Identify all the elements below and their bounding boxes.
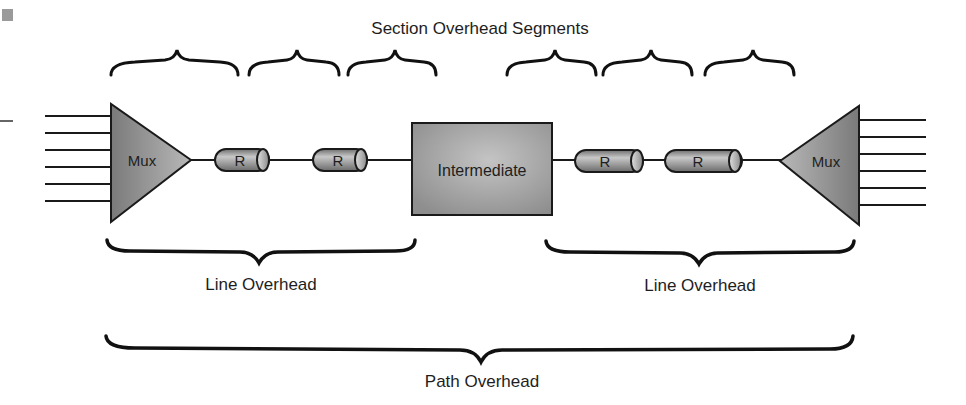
repeater-4-label: R	[693, 153, 704, 170]
line-overhead-right-label: Line Overhead	[644, 276, 756, 295]
repeater-2-label: R	[333, 152, 344, 169]
repeater-2: R	[313, 149, 367, 171]
repeater-1: R	[215, 149, 269, 171]
mux-left: Mux	[111, 104, 191, 222]
line-overhead-brace-left	[107, 240, 415, 263]
repeater-4: R	[665, 150, 742, 172]
repeater-3: R	[575, 150, 643, 172]
line-overhead-left-label: Line Overhead	[205, 275, 317, 294]
left-tributary-lines	[45, 116, 111, 201]
section-brace-4	[507, 50, 596, 75]
section-brace-6	[705, 50, 794, 75]
line-overhead-brace-right	[546, 241, 854, 264]
section-overhead-braces	[111, 50, 794, 75]
section-brace-3	[348, 50, 436, 75]
section-overhead-title: Section Overhead Segments	[371, 19, 588, 38]
mux-left-label: Mux	[128, 152, 157, 169]
section-brace-1	[111, 50, 238, 75]
repeater-1-label: R	[235, 152, 246, 169]
intermediate-label: Intermediate	[438, 162, 527, 179]
sonet-overhead-diagram: Section Overhead Segments	[0, 0, 966, 405]
mux-right: Mux	[780, 106, 859, 225]
corner-marker	[2, 9, 13, 21]
intermediate-node: Intermediate	[412, 123, 552, 215]
section-brace-2	[249, 50, 339, 75]
right-tributary-lines	[859, 120, 926, 205]
section-brace-5	[603, 50, 692, 75]
mux-right-label: Mux	[812, 153, 841, 170]
path-overhead-label: Path Overhead	[425, 372, 539, 391]
repeater-3-label: R	[600, 153, 611, 170]
path-overhead-brace	[106, 336, 853, 362]
